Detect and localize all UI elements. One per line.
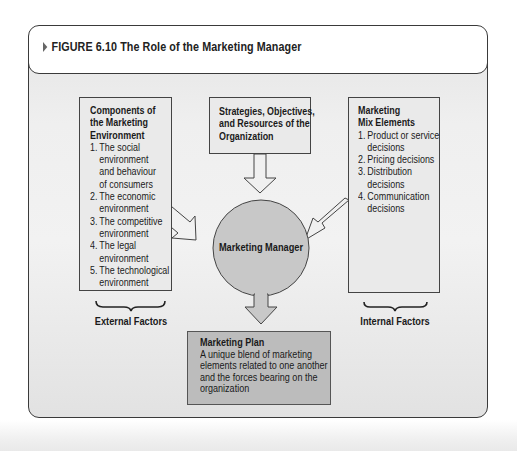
arrow-strategy-to-manager [244, 154, 276, 193]
list-item: 3. The competitiveenvironment [90, 215, 159, 240]
list-item: 2. Pricing decisions [358, 153, 427, 165]
list-item: 5. The technologicalenvironment [90, 264, 159, 289]
internal-factors-list: 1. Product or servicedecisions 2. Pricin… [358, 129, 427, 215]
external-factors-label: External Factors [93, 315, 169, 327]
marketing-manager-label: Marketing Manager [210, 241, 312, 253]
internal-factors-label: Internal Factors [357, 315, 433, 327]
external-factors-list: 1. The socialenvironmentand behaviourof … [90, 141, 159, 289]
arrow-manager-to-plan [245, 294, 277, 324]
arrow-internal-to-manager [305, 198, 349, 240]
list-item: 1. Product or servicedecisions [358, 129, 427, 154]
list-item: 4. The legalenvironment [90, 239, 159, 264]
marketing-plan-box: Marketing Plan A unique blend of marketi… [187, 331, 331, 405]
internal-box-heading: Marketing Mix Elements [358, 104, 427, 129]
strategy-box: Strategies, Objectives, and Resources of… [209, 97, 311, 154]
list-item: 1. The socialenvironmentand behaviourof … [90, 141, 159, 190]
list-item: 4. Communicationdecisions [358, 190, 427, 215]
external-bracket [96, 301, 165, 311]
marketing-plan-heading: Marketing Plan [200, 337, 312, 349]
internal-bracket [364, 302, 427, 311]
list-item: 2. The economicenvironment [90, 190, 159, 215]
external-factors-box: Components of the Marketing Environment … [79, 97, 172, 291]
internal-factors-box: Marketing Mix Elements 1. Product or ser… [348, 97, 440, 293]
page-bottom-shade [0, 420, 517, 451]
external-box-heading: Components of the Marketing Environment [90, 104, 159, 141]
list-item: 3. Distributiondecisions [358, 165, 427, 190]
